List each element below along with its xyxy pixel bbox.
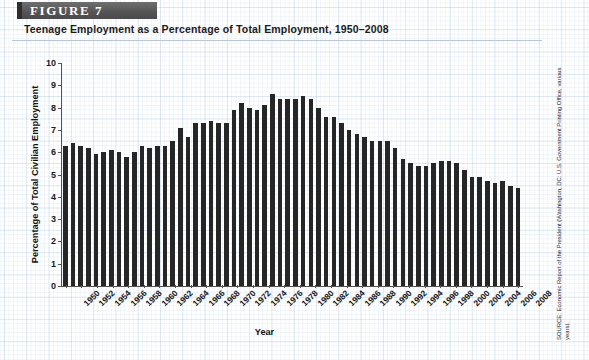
bar xyxy=(170,141,175,286)
bar xyxy=(293,99,298,286)
y-tick-label: 0 xyxy=(51,281,56,291)
x-tick-mark xyxy=(315,285,316,288)
x-axis-ticks: 1950195219541956195819601962196419661968… xyxy=(62,288,522,328)
bar xyxy=(124,157,129,286)
source-note-text: SOURCE: Economic Report of the President… xyxy=(556,64,571,340)
bar xyxy=(216,123,221,286)
figure-number-label: FIGURE 7 xyxy=(22,2,157,19)
bar xyxy=(101,152,106,286)
y-tick-label: 3 xyxy=(51,214,56,224)
x-tick-mark xyxy=(409,285,410,288)
x-tick-mark xyxy=(222,285,223,288)
y-tick-label: 6 xyxy=(51,147,56,157)
x-tick-mark xyxy=(113,285,114,288)
bar xyxy=(362,137,367,286)
x-tick-mark xyxy=(378,285,379,288)
bar xyxy=(78,146,83,286)
bar xyxy=(193,123,198,286)
x-tick-mark xyxy=(237,285,238,288)
x-tick-mark xyxy=(97,285,98,288)
bar xyxy=(224,123,229,286)
bar-series xyxy=(62,63,522,286)
bar xyxy=(324,117,329,286)
x-axis-title: Year xyxy=(0,327,529,337)
bar xyxy=(239,103,244,286)
y-tick-label: 4 xyxy=(51,192,56,202)
bar xyxy=(278,99,283,286)
bar xyxy=(178,128,183,286)
bar xyxy=(393,148,398,286)
bar xyxy=(285,99,290,286)
bar xyxy=(493,183,498,286)
x-tick-mark xyxy=(503,285,504,288)
x-tick-mark xyxy=(253,285,254,288)
bar xyxy=(424,166,429,286)
x-tick-mark xyxy=(456,285,457,288)
bar xyxy=(155,146,160,286)
bar xyxy=(454,163,459,286)
bar xyxy=(370,141,375,286)
x-tick-mark xyxy=(206,285,207,288)
bar xyxy=(262,105,267,286)
x-tick-mark xyxy=(331,285,332,288)
bar xyxy=(163,146,168,286)
bar xyxy=(209,121,214,286)
bar xyxy=(355,134,360,286)
x-tick-mark xyxy=(144,285,145,288)
x-tick-mark xyxy=(393,285,394,288)
chart-plot-area: 012345678910 xyxy=(62,63,522,286)
bar xyxy=(408,163,413,286)
x-tick-mark xyxy=(66,285,67,288)
y-tick-label: 1 xyxy=(51,259,56,269)
bar xyxy=(255,110,260,286)
title-divider xyxy=(12,40,542,41)
y-tick-label: 7 xyxy=(51,125,56,135)
y-tick-label: 5 xyxy=(51,170,56,180)
bar xyxy=(516,188,521,286)
bar xyxy=(147,148,152,286)
bar xyxy=(378,141,383,286)
bar xyxy=(508,186,513,286)
bar xyxy=(140,146,145,286)
bar xyxy=(332,117,337,286)
bar xyxy=(447,161,452,286)
y-tick-label: 9 xyxy=(51,80,56,90)
x-tick-mark xyxy=(347,285,348,288)
x-tick-mark xyxy=(159,285,160,288)
bar xyxy=(132,152,137,286)
x-tick-mark xyxy=(269,285,270,288)
bar xyxy=(431,163,436,286)
x-tick-label: 2008 xyxy=(534,288,554,308)
bar xyxy=(316,108,321,286)
x-tick-mark xyxy=(284,285,285,288)
x-tick-mark xyxy=(471,285,472,288)
bar xyxy=(86,148,91,286)
y-tick-mark xyxy=(58,286,62,287)
y-tick-label: 10 xyxy=(46,58,56,68)
bar xyxy=(401,159,406,286)
bar xyxy=(63,146,68,286)
bar xyxy=(117,152,122,286)
bar xyxy=(500,181,505,286)
x-tick-mark xyxy=(518,285,519,288)
bar xyxy=(462,170,467,286)
x-tick-mark xyxy=(128,285,129,288)
bar xyxy=(439,161,444,286)
bar xyxy=(94,154,99,286)
bar xyxy=(477,177,482,286)
bar xyxy=(347,130,352,286)
source-note: SOURCE: Economic Report of the President… xyxy=(556,0,571,64)
x-tick-mark xyxy=(425,285,426,288)
x-tick-mark xyxy=(191,285,192,288)
bar xyxy=(416,166,421,286)
bar xyxy=(247,108,252,286)
bar xyxy=(485,181,490,286)
bar xyxy=(470,177,475,286)
y-axis-title: Percentage of Total Civilian Employment xyxy=(28,0,42,63)
x-tick-mark xyxy=(175,285,176,288)
y-tick-label: 8 xyxy=(51,103,56,113)
y-axis-title-text: Percentage of Total Civilian Employment xyxy=(28,63,42,286)
bar xyxy=(301,96,306,286)
bar xyxy=(71,143,76,286)
x-tick-mark xyxy=(300,285,301,288)
